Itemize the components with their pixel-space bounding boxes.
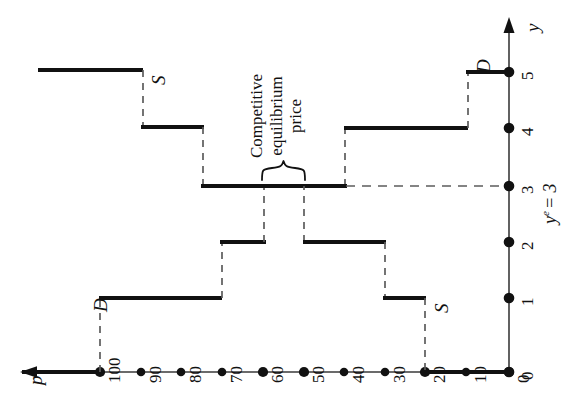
- equilibrium-quantity-label: ye= 3: [540, 183, 559, 224]
- tick-dot-p-90: [137, 368, 146, 377]
- p-tick-label-40: 40: [350, 366, 367, 383]
- supply-label-upper: S: [149, 76, 168, 86]
- tick-dot-y-4: [504, 123, 515, 134]
- tick-dot-p-60: [258, 367, 268, 377]
- y-axis-arrowhead: [504, 17, 515, 33]
- p-tick-label-60: 60: [269, 366, 286, 383]
- p-tick-label-30: 30: [391, 366, 408, 383]
- supply-label-lower: S: [432, 304, 451, 314]
- equilibrium-quantity-var: y: [540, 216, 560, 224]
- y-tick-label-4: 4: [519, 128, 536, 137]
- y-tick-label-1: 1: [519, 298, 536, 307]
- p-axis-label: p: [26, 376, 45, 386]
- annotation-line-3: price: [286, 74, 306, 158]
- demand-label-lower: D: [91, 298, 110, 312]
- tick-dot-p-70: [218, 368, 227, 377]
- p-tick-label-70: 70: [228, 366, 245, 383]
- y-tick-label-3: 3: [519, 186, 536, 195]
- p-tick-label-50: 50: [310, 366, 327, 383]
- y-axis-label: y: [523, 24, 542, 32]
- annotation-line-2: equilibrium: [267, 74, 287, 158]
- tick-dot-p-50: [299, 367, 309, 377]
- tick-dot-y-1: [504, 293, 515, 304]
- demand-label-upper: D: [474, 59, 493, 73]
- tick-dot-p-30: [381, 368, 390, 377]
- competitive-equilibrium-price-annotation: Competitive equilibrium price: [247, 74, 306, 158]
- annotation-line-1: Competitive: [247, 74, 267, 158]
- tick-dot-p-80: [177, 368, 186, 377]
- y-tick-label-5: 5: [519, 72, 536, 81]
- p-tick-label-90: 90: [147, 366, 164, 383]
- tick-dot-y-2: [504, 237, 515, 248]
- step-function-plot: [0, 0, 583, 417]
- equilibrium-quantity-superscript: e: [539, 211, 551, 216]
- p-tick-label-80: 80: [187, 366, 204, 383]
- tick-dot-y-3: [504, 181, 515, 192]
- equilibrium-quantity-value: = 3: [540, 183, 560, 209]
- figure-canvas: 100 90 80 70 60 50 40 30 20 10 0 5 4 3 2…: [0, 0, 583, 417]
- equilibrium-brace: [262, 161, 305, 180]
- y-tick-label-2: 2: [519, 242, 536, 251]
- p-tick-label-100: 100: [106, 358, 123, 384]
- y-tick-label-0: 0: [519, 372, 536, 381]
- p-tick-label-20: 20: [431, 366, 448, 383]
- p-tick-label-10: 10: [472, 366, 489, 383]
- tick-dot-p-40: [340, 368, 349, 377]
